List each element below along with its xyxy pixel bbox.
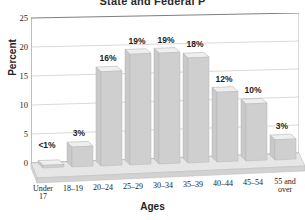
- data-label-18-19: 3%: [62, 128, 96, 138]
- bar-30-34: [154, 48, 180, 164]
- x-tick-55-and-over: 55 and over: [266, 178, 304, 195]
- data-label-40-44: 12%: [207, 74, 241, 84]
- bar-55-and-over: [270, 134, 296, 160]
- bar-25-29: [125, 49, 151, 165]
- data-label-55-and-over: 3%: [265, 121, 299, 131]
- x-tick-under-17: Under 17: [26, 185, 60, 202]
- bar-45-54: [241, 98, 267, 161]
- x-tick-25-29: 25–29: [116, 183, 150, 191]
- x-tick-30-34: 30–34: [146, 182, 180, 190]
- x-axis-title: Ages: [0, 201, 305, 212]
- bar-18-19: [67, 141, 93, 167]
- data-label-35-39: 18%: [178, 39, 212, 49]
- data-label-20-24: 16%: [91, 53, 125, 63]
- bar-35-39: [183, 52, 209, 163]
- bar-chart: State and Federal P Percent 25 20 15 10 …: [0, 0, 305, 220]
- bar-20-24: [96, 66, 122, 166]
- data-label-under-17: <1%: [30, 140, 64, 150]
- bar-under-17: [38, 160, 64, 168]
- data-label-45-54: 10%: [236, 85, 270, 95]
- x-tick-18-19: 18–19: [56, 185, 90, 193]
- x-tick-35-39: 35–39: [176, 181, 210, 189]
- bar-40-44: [212, 87, 238, 162]
- x-tick-20-24: 20–24: [86, 184, 120, 192]
